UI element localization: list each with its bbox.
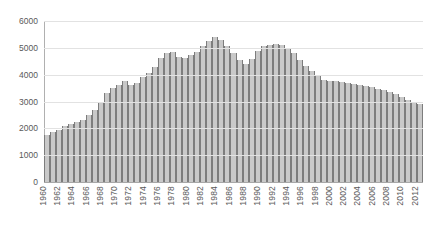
x-tick-label-1980: 1980 xyxy=(187,184,194,230)
x-tick-label-2012: 2012 xyxy=(416,184,423,230)
x-tick-label-1988: 1988 xyxy=(244,184,251,230)
x-tick-label-1976: 1976 xyxy=(159,184,166,230)
gridline-1000: 1000 xyxy=(44,155,423,156)
y-tick-label: 2000 xyxy=(19,123,38,133)
x-tick-label-1982: 1982 xyxy=(201,184,208,230)
x-tick-label-1960: 1960 xyxy=(44,184,51,230)
y-tick-label: 5000 xyxy=(19,43,38,53)
x-tick-label-1996: 1996 xyxy=(302,184,309,230)
bar-chart: 6000500040003000200010000 19601962196419… xyxy=(0,0,435,230)
y-tick-label: 6000 xyxy=(19,16,38,26)
x-tick-label-1984: 1984 xyxy=(216,184,223,230)
x-tick-label-1994: 1994 xyxy=(287,184,294,230)
x-tick-label-1968: 1968 xyxy=(101,184,108,230)
x-tick-label-2006: 2006 xyxy=(373,184,380,230)
x-tick-label-1992: 1992 xyxy=(273,184,280,230)
x-tick-label-2010: 2010 xyxy=(402,184,409,230)
gridline-0: 0 xyxy=(44,182,423,183)
gridline-3000: 3000 xyxy=(44,102,423,103)
x-tick-label-1972: 1972 xyxy=(130,184,137,230)
x-tick-label-1998: 1998 xyxy=(316,184,323,230)
x-tick-label-1974: 1974 xyxy=(144,184,151,230)
x-tick-label-1990: 1990 xyxy=(259,184,266,230)
x-tick-label-2004: 2004 xyxy=(359,184,366,230)
x-tick-label-1964: 1964 xyxy=(73,184,80,230)
x-tick-label-1962: 1962 xyxy=(58,184,65,230)
x-tick-label-2008: 2008 xyxy=(388,184,395,230)
x-axis-tick-labels: 1960196219641966196819701972197419761978… xyxy=(44,184,423,230)
x-tick-label-1970: 1970 xyxy=(116,184,123,230)
gridline-4000: 4000 xyxy=(44,75,423,76)
x-tick-label-2000: 2000 xyxy=(330,184,337,230)
x-tick-label-1966: 1966 xyxy=(87,184,94,230)
x-tick-label-1978: 1978 xyxy=(173,184,180,230)
gridline-6000: 6000 xyxy=(44,21,423,22)
bar xyxy=(417,104,423,182)
gridline-5000: 5000 xyxy=(44,48,423,49)
x-tick-label-1986: 1986 xyxy=(230,184,237,230)
y-tick-label: 4000 xyxy=(19,70,38,80)
plot-frame: 6000500040003000200010000 xyxy=(44,21,423,182)
x-tick-label-2002: 2002 xyxy=(345,184,352,230)
y-tick-label: 3000 xyxy=(19,97,38,107)
gridline-2000: 2000 xyxy=(44,128,423,129)
y-tick-label: 1000 xyxy=(19,150,38,160)
